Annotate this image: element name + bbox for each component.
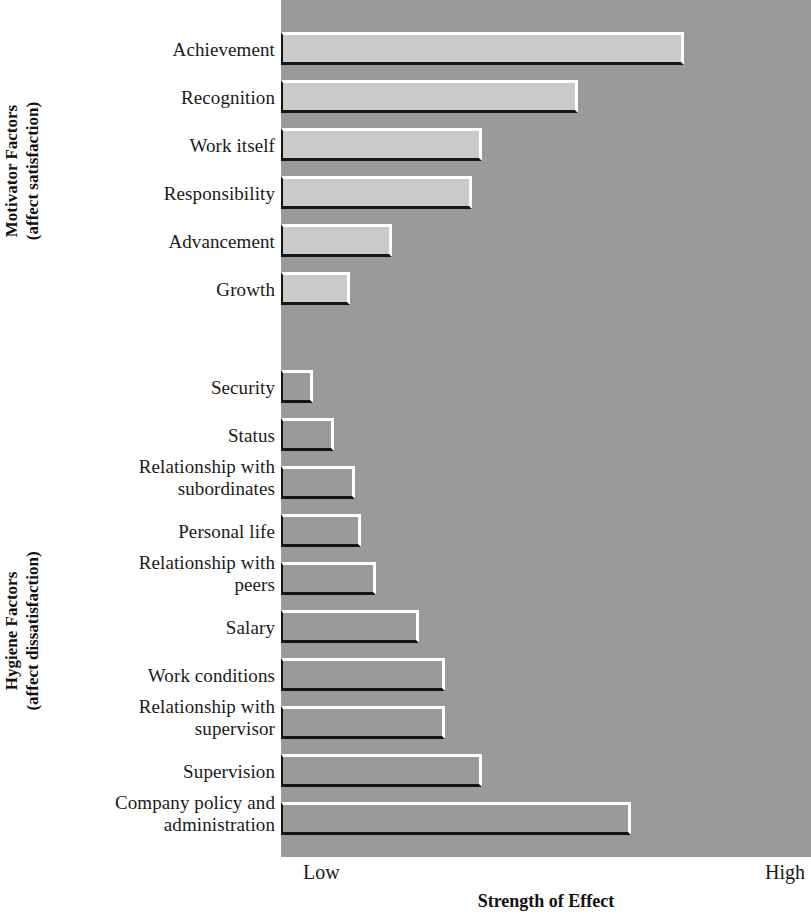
category-label-line1: Personal life	[25, 521, 275, 543]
bar-personal-life	[281, 514, 361, 547]
bar-supervision	[281, 754, 482, 787]
bar-row	[281, 459, 811, 507]
category-label: Security	[25, 377, 275, 399]
x-axis-title: Strength of Effect	[281, 891, 811, 912]
category-label-line1: Work itself	[25, 135, 275, 157]
category-label-line1: Status	[25, 425, 275, 447]
category-label-line1: Recognition	[25, 87, 275, 109]
bar-company-policy-and	[281, 802, 631, 835]
category-label-line1: Company policy and	[25, 792, 275, 814]
bar-row	[281, 121, 811, 169]
category-label: Work conditions	[25, 665, 275, 687]
bar-row	[281, 169, 811, 217]
category-label-line1: Relationship with	[25, 696, 275, 718]
category-label-line2: subordinates	[25, 478, 275, 500]
bar-responsibility	[281, 176, 472, 209]
category-label-line1: Responsibility	[25, 183, 275, 205]
bar-work-itself	[281, 128, 482, 161]
category-label-line1: Security	[25, 377, 275, 399]
category-label: Achievement	[25, 39, 275, 61]
category-label: Supervision	[25, 761, 275, 783]
category-label-line1: Relationship with	[25, 552, 275, 574]
category-label-line2: supervisor	[25, 718, 275, 740]
bar-row	[281, 73, 811, 121]
motivator-factors-title-line1: Motivator Factors	[1, 21, 22, 321]
category-label-line1: Supervision	[25, 761, 275, 783]
category-label: Status	[25, 425, 275, 447]
bar-achievement	[281, 32, 684, 65]
bar-salary	[281, 610, 419, 643]
category-label: Relationship withpeers	[25, 552, 275, 596]
category-label: Work itself	[25, 135, 275, 157]
motivator-factors-axis-title: Motivator Factors (affect satisfaction)	[1, 21, 43, 321]
category-label: Personal life	[25, 521, 275, 543]
category-label: Relationship withsubordinates	[25, 456, 275, 500]
bar-row	[281, 795, 811, 843]
bar-row	[281, 363, 811, 411]
hygiene-factors-title-line1: Hygiene Factors	[1, 481, 22, 781]
bar-row	[281, 699, 811, 747]
category-label-line1: Relationship with	[25, 456, 275, 478]
category-label-line2: peers	[25, 574, 275, 596]
category-label-line2: administration	[25, 814, 275, 836]
bar-security	[281, 370, 313, 403]
bar-advancement	[281, 224, 392, 257]
bar-row	[281, 603, 811, 651]
category-label-line1: Salary	[25, 617, 275, 639]
category-label: Advancement	[25, 231, 275, 253]
bar-status	[281, 418, 334, 451]
category-label-line1: Advancement	[25, 231, 275, 253]
category-label-line1: Growth	[25, 279, 275, 301]
motivator-factors-title-line2: (affect satisfaction)	[22, 21, 43, 321]
category-label: Relationship withsupervisor	[25, 696, 275, 740]
axis-tick-low: Low	[303, 861, 340, 884]
bar-row	[281, 651, 811, 699]
bar-row	[281, 25, 811, 73]
category-label-line1: Work conditions	[25, 665, 275, 687]
bar-row	[281, 265, 811, 313]
bar-relationship-with	[281, 466, 355, 499]
bar-row	[281, 411, 811, 459]
bar-work-conditions	[281, 658, 445, 691]
category-label: Growth	[25, 279, 275, 301]
category-label: Salary	[25, 617, 275, 639]
bar-growth	[281, 272, 350, 305]
category-label: Responsibility	[25, 183, 275, 205]
bar-recognition	[281, 80, 578, 113]
category-label: Company policy andadministration	[25, 792, 275, 836]
category-label: Recognition	[25, 87, 275, 109]
bar-relationship-with	[281, 706, 445, 739]
bar-row	[281, 507, 811, 555]
category-label-line1: Achievement	[25, 39, 275, 61]
axis-tick-high: High	[765, 861, 805, 884]
chart-plot-area	[281, 0, 811, 857]
bar-row	[281, 555, 811, 603]
bar-row	[281, 747, 811, 795]
bar-relationship-with	[281, 562, 376, 595]
bar-row	[281, 217, 811, 265]
